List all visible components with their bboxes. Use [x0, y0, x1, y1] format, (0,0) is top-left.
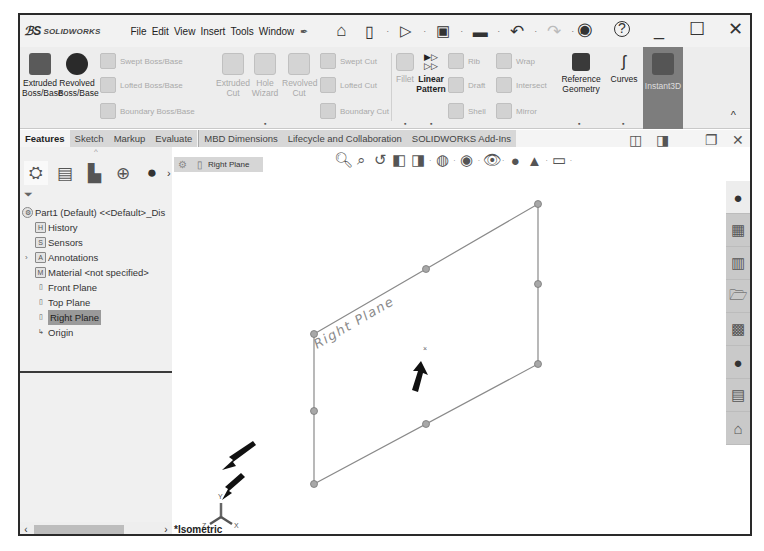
propertymanager-icon[interactable]: ▤: [53, 161, 77, 185]
tree-item-front-plane[interactable]: ▯ Front Plane: [22, 280, 172, 295]
tab-evaluate[interactable]: Evaluate: [150, 130, 197, 147]
tree-item-annotations[interactable]: › A Annotations: [22, 250, 172, 265]
doc-minimize-button[interactable]: _: [683, 132, 691, 148]
display-manager-icon[interactable]: ●: [140, 161, 164, 185]
instant3d-button[interactable]: Instant3D: [643, 47, 683, 129]
appearances-icon[interactable]: ●: [726, 346, 750, 379]
scroll-right-arrow-icon[interactable]: ›: [160, 524, 172, 535]
undo-dropdown[interactable]: ·: [534, 26, 537, 36]
intersect-button[interactable]: Intersect: [496, 77, 547, 93]
home-3dexperience-icon[interactable]: ⌂: [726, 412, 750, 445]
right-plane-outline[interactable]: [314, 204, 538, 484]
menu-window[interactable]: Window: [259, 26, 295, 37]
new-document-icon[interactable]: ▯: [358, 20, 380, 42]
lofted-cut-button[interactable]: Lofted Cut: [320, 77, 377, 93]
fillet-dropdown[interactable]: ▪: [404, 120, 406, 127]
tab-mbd-dimensions[interactable]: MBD Dimensions: [198, 130, 282, 147]
tab-sketch[interactable]: Sketch: [70, 130, 109, 147]
menu-edit[interactable]: Edit: [152, 26, 169, 37]
tree-item-right-plane[interactable]: ▯ Right Plane: [22, 310, 172, 325]
plane-handles[interactable]: [311, 201, 542, 488]
tree-item-sensors[interactable]: S Sensors: [22, 235, 172, 250]
revolved-boss-base-button[interactable]: Revolved Boss/Base: [58, 53, 96, 98]
extruded-boss-base-button[interactable]: Extruded Boss/Base: [22, 53, 58, 98]
reference-geometry-dropdown[interactable]: ▪: [578, 120, 580, 127]
rib-button[interactable]: Rib: [448, 53, 480, 69]
tree-item-history[interactable]: H History: [22, 220, 172, 235]
menu-insert[interactable]: Insert: [200, 26, 225, 37]
tile-right-icon[interactable]: ◨: [656, 132, 669, 148]
panel-grip[interactable]: ^: [20, 147, 172, 159]
save-icon[interactable]: ▣: [432, 20, 454, 42]
mirror-button[interactable]: Mirror: [496, 103, 537, 119]
filter-icon[interactable]: ⏷: [20, 187, 172, 201]
extruded-cut-button[interactable]: Extruded Cut: [216, 53, 250, 98]
save-dropdown[interactable]: ·: [460, 26, 463, 36]
tile-left-icon[interactable]: ◫: [629, 132, 642, 148]
fillet-button[interactable]: Fillet: [394, 53, 416, 84]
scroll-left-arrow-icon[interactable]: ‹: [20, 524, 32, 535]
curves-button[interactable]: ʃ Curves: [606, 53, 642, 84]
menu-view[interactable]: View: [174, 26, 196, 37]
close-button[interactable]: ✕: [726, 18, 744, 40]
redo-icon[interactable]: ↷: [543, 20, 565, 42]
revolved-cut-button[interactable]: Revolved Cut: [282, 53, 316, 98]
maximize-button[interactable]: ☐: [688, 18, 706, 40]
tree-root-part[interactable]: ⚙ Part1 (Default) <<Default>_Dis: [22, 205, 172, 220]
doc-restore-button[interactable]: ❐: [705, 132, 718, 148]
design-library-icon[interactable]: ▦: [726, 214, 750, 247]
more-tabs-chevron-icon[interactable]: ›: [167, 167, 171, 179]
reference-geometry-button[interactable]: Reference Geometry: [558, 53, 604, 94]
tab-lifecycle-collaboration[interactable]: Lifecycle and Collaboration: [283, 130, 407, 147]
open-dropdown[interactable]: ·: [423, 26, 426, 36]
tree-item-material[interactable]: M Material <not specified>: [22, 265, 172, 280]
custom-properties-icon[interactable]: ▤: [726, 379, 750, 412]
solidworks-resources-icon[interactable]: ●: [726, 181, 750, 214]
tree-item-top-plane[interactable]: ▯ Top Plane: [22, 295, 172, 310]
hole-wizard-button[interactable]: Hole Wizard: [250, 53, 280, 98]
open-icon[interactable]: ▷: [395, 20, 417, 42]
new-dropdown[interactable]: ·: [386, 26, 389, 36]
tree-item-origin[interactable]: ↳ Origin: [22, 325, 172, 340]
solidworks-logo[interactable]: ℬS SOLIDWORKS: [24, 24, 101, 38]
redo-dropdown[interactable]: ·: [571, 26, 574, 36]
graphics-area[interactable]: ⚙ ▯ Right Plane 🔍︎ ⌕ ↺ ◧ ◨ · ◍ · ◉ · 👁︎ …: [174, 147, 750, 536]
file-explorer-icon[interactable]: ▥: [726, 247, 750, 280]
expand-arrow-icon[interactable]: ›: [25, 250, 35, 265]
view-palette-icon[interactable]: ▩: [726, 313, 750, 346]
dimxpert-icon[interactable]: ⊕: [111, 161, 135, 185]
doc-close-button[interactable]: ✕: [732, 132, 744, 148]
tab-markup[interactable]: Markup: [109, 130, 151, 147]
menu-file[interactable]: File: [131, 26, 147, 37]
lofted-boss-base-button[interactable]: Lofted Boss/Base: [100, 77, 183, 93]
tab-features[interactable]: Features: [20, 130, 70, 147]
curves-dropdown[interactable]: ▪: [622, 120, 624, 127]
minimize-button[interactable]: _: [650, 19, 668, 40]
configurationmanager-icon[interactable]: ▙: [82, 161, 106, 185]
print-dropdown[interactable]: ·: [497, 26, 500, 36]
menu-tools[interactable]: Tools: [230, 26, 253, 37]
scroll-thumb[interactable]: [34, 525, 124, 534]
home-icon[interactable]: ⌂: [330, 20, 352, 42]
draft-button[interactable]: Draft: [448, 77, 485, 93]
hole-wizard-dropdown[interactable]: ▪: [264, 120, 266, 127]
wrap-button[interactable]: Wrap: [496, 53, 535, 69]
help-icon[interactable]: ?: [614, 21, 630, 37]
folder-icon[interactable]: 🗁: [726, 280, 750, 313]
boundary-cut-button[interactable]: Boundary Cut: [320, 103, 389, 119]
swept-cut-button[interactable]: Swept Cut: [320, 53, 377, 69]
print-icon[interactable]: ▬: [469, 20, 491, 42]
linear-pattern-dropdown[interactable]: ▪: [430, 120, 432, 127]
collapse-ribbon-icon[interactable]: ^: [731, 109, 736, 121]
featuremanager-icon[interactable]: ⛭: [24, 161, 48, 185]
undo-icon[interactable]: ↶: [506, 20, 528, 42]
horizontal-scrollbar[interactable]: ‹ ›: [20, 522, 172, 536]
tab-solidworks-add-ins[interactable]: SOLIDWORKS Add-Ins: [407, 130, 516, 147]
pin-icon[interactable]: ✒: [300, 26, 308, 37]
user-account-icon[interactable]: ◉: [576, 18, 594, 40]
linear-pattern-button[interactable]: ▶▷▷▷ Linear Pattern: [416, 53, 446, 94]
swept-boss-base-button[interactable]: Swept Boss/Base: [100, 53, 183, 69]
shell-button[interactable]: Shell: [448, 103, 486, 119]
boundary-boss-base-button[interactable]: Boundary Boss/Base: [100, 103, 195, 119]
panel-divider[interactable]: [20, 371, 172, 373]
